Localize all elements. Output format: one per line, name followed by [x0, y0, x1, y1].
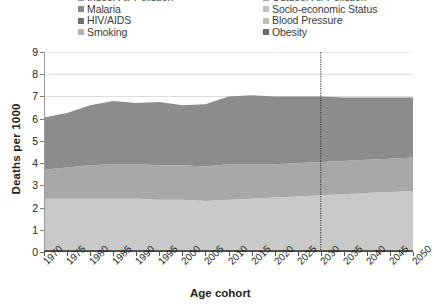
y-tick-label: 0	[24, 246, 38, 258]
x-tick-mark	[136, 252, 137, 256]
y-tick-mark	[40, 230, 44, 231]
legend-swatch-obesity	[263, 29, 269, 35]
x-tick-mark	[67, 252, 68, 256]
x-tick-mark	[44, 252, 45, 256]
legend-label: HIV/AIDS	[87, 15, 131, 27]
x-tick-mark	[344, 252, 345, 256]
y-tick-mark	[40, 74, 44, 75]
legend-swatch-smoking	[78, 29, 84, 35]
x-tick-mark	[90, 252, 91, 256]
chart-plot-area: Deaths per 1000 Age cohort 0123456789 19…	[0, 47, 420, 304]
y-tick-mark	[40, 252, 44, 253]
y-tick-label: 1	[24, 224, 38, 236]
legend-column-left: Indoor Air Pollution Malaria HIV/AIDS Sm…	[78, 0, 173, 38]
x-tick-mark	[413, 252, 414, 256]
x-tick-mark	[229, 252, 230, 256]
x-tick-mark	[390, 252, 391, 256]
y-tick-label: 4	[24, 157, 38, 169]
x-axis-tick-labels: 1970197519801985199019952000200520102015…	[0, 47, 420, 107]
y-tick-mark	[40, 141, 44, 142]
y-tick-mark	[40, 52, 44, 53]
y-tick-label: 2	[24, 202, 38, 214]
legend-swatch-malaria	[78, 6, 84, 12]
x-tick-mark	[275, 252, 276, 256]
legend-swatch-blood-pressure	[263, 18, 269, 24]
y-tick-label: 3	[24, 179, 38, 191]
legend-swatch-socio-economic-status	[263, 6, 269, 12]
legend-label: Blood Pressure	[272, 15, 342, 27]
x-tick-mark	[321, 252, 322, 256]
x-axis-title: Age cohort	[190, 287, 251, 299]
x-tick-mark	[113, 252, 114, 256]
chart-legend: Indoor Air Pollution Malaria HIV/AIDS Sm…	[0, 0, 420, 47]
legend-swatch-outdoor-air-pollution	[263, 0, 269, 1]
legend-item: Smoking	[78, 27, 173, 39]
x-tick-mark	[205, 252, 206, 256]
legend-column-right: Outdoor Air Pollution Socio-economic Sta…	[263, 0, 377, 38]
y-tick-mark	[40, 163, 44, 164]
x-tick-mark	[182, 252, 183, 256]
y-tick-label: 5	[24, 135, 38, 147]
x-tick-mark	[367, 252, 368, 256]
legend-item: Blood Pressure	[263, 15, 377, 27]
x-tick-mark	[252, 252, 253, 256]
legend-label: Smoking	[87, 27, 127, 39]
x-tick-mark	[298, 252, 299, 256]
y-tick-mark	[40, 185, 44, 186]
legend-swatch-indoor-air-pollution	[78, 0, 84, 1]
x-tick-mark	[159, 252, 160, 256]
legend-item: HIV/AIDS	[78, 15, 173, 27]
y-tick-mark	[40, 119, 44, 120]
y-tick-mark	[40, 208, 44, 209]
legend-item: Obesity	[263, 27, 377, 39]
legend-swatch-hiv-aids	[78, 18, 84, 24]
legend-label: Obesity	[272, 27, 307, 39]
y-tick-label: 6	[24, 113, 38, 125]
y-tick-mark	[40, 96, 44, 97]
